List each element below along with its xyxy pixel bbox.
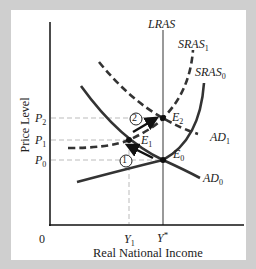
- ad0-curve: [81, 86, 200, 178]
- step-2-label: 2: [132, 113, 137, 123]
- sras0-label: SRAS0: [195, 66, 226, 81]
- p2-label: P2: [35, 112, 46, 127]
- e2-dot: [160, 115, 166, 121]
- x-axis-label: Real National Income: [93, 247, 203, 260]
- ad0-label: AD0: [203, 172, 223, 187]
- ystar-label: Y*: [157, 231, 168, 244]
- lras-label: LRAS: [148, 18, 175, 30]
- e1-dot: [126, 137, 132, 143]
- e0-label: E0: [173, 148, 184, 163]
- sras1-curve: [68, 50, 193, 148]
- e0-dot: [160, 157, 166, 163]
- e1-label: E1: [141, 134, 152, 149]
- e2-label: E2: [172, 111, 183, 126]
- p1-label: P1: [35, 134, 46, 149]
- p0-label: P0: [35, 154, 46, 169]
- step-1-label: 1: [122, 155, 127, 165]
- origin-label: 0: [39, 233, 45, 245]
- y-axis-label: Price Level: [18, 98, 33, 153]
- ad1-label: AD1: [210, 131, 230, 146]
- sras1-label: SRAS1: [178, 38, 209, 53]
